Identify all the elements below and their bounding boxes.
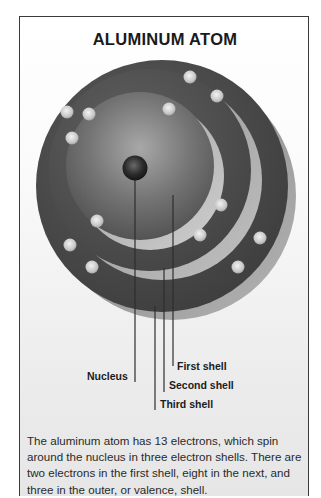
electron-icon [66, 132, 79, 145]
electron-icon [215, 199, 228, 212]
label-second-shell: Second shell [169, 379, 234, 391]
electron-icon [163, 103, 176, 116]
electron-icon [194, 229, 207, 242]
electron-icon [64, 239, 77, 252]
electron-icon [254, 232, 267, 245]
caption-text: The aluminum atom has 13 electrons, whic… [27, 433, 307, 498]
nucleus-icon [123, 156, 148, 181]
electron-icon [232, 261, 245, 274]
electron-icon [86, 261, 99, 274]
electron-icon [91, 215, 104, 228]
label-nucleus: Nucleus [87, 370, 128, 382]
electron-icon [83, 108, 96, 121]
electron-icon [184, 71, 197, 84]
label-third-shell: Third shell [160, 398, 213, 410]
electron-icon [211, 90, 224, 103]
electron-icon [61, 106, 74, 119]
label-first-shell: First shell [177, 360, 227, 372]
